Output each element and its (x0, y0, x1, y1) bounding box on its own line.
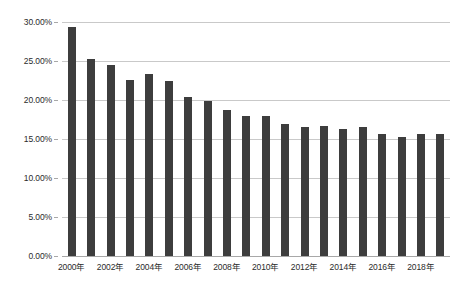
x-tick-label: 2004年 (136, 260, 163, 272)
y-tick-mark (54, 61, 58, 62)
y-tick-mark (54, 178, 58, 179)
bar (223, 110, 231, 256)
y-tick-label: 20.00% (24, 95, 52, 105)
y-tick-label: 10.00% (24, 173, 52, 183)
bar (436, 134, 444, 256)
bar (398, 137, 406, 256)
bar-series (62, 22, 450, 256)
y-tick-mark (54, 139, 58, 140)
bar (301, 127, 309, 256)
bar (145, 74, 153, 256)
x-tick-label: 2002年 (97, 260, 124, 272)
bar (242, 116, 250, 256)
y-tick-mark (54, 217, 58, 218)
bar (184, 97, 192, 256)
y-tick-mark (54, 22, 58, 23)
bar (204, 101, 212, 256)
y-tick-mark (54, 256, 58, 257)
x-tick-label: 2000年 (58, 260, 85, 272)
bar (87, 59, 95, 256)
x-tick-label: 2012年 (291, 260, 318, 272)
bar (359, 127, 367, 256)
bar (339, 129, 347, 256)
bar (378, 134, 386, 256)
gridline (62, 256, 450, 257)
bar (281, 124, 289, 256)
x-tick-label: 2018年 (407, 260, 434, 272)
bar (262, 116, 270, 256)
plot-area (62, 22, 450, 256)
y-tick-label: 30.00% (24, 17, 52, 27)
x-tick-label: 2008年 (213, 260, 240, 272)
x-tick-label: 2016年 (368, 260, 395, 272)
y-tick-label: 0.00% (28, 251, 52, 261)
bar-chart: 0.00%5.00%10.00%15.00%20.00%25.00%30.00%… (0, 0, 460, 290)
y-tick-mark (54, 100, 58, 101)
bar (417, 134, 425, 256)
x-axis: 2000年2002年2004年2006年2008年2010年2012年2014年… (62, 260, 450, 284)
bar (68, 27, 76, 256)
y-tick-label: 15.00% (24, 134, 52, 144)
x-tick-label: 2010年 (252, 260, 279, 272)
bar (126, 80, 134, 256)
y-axis: 0.00%5.00%10.00%15.00%20.00%25.00%30.00% (0, 0, 58, 290)
bar (107, 65, 115, 256)
y-tick-label: 5.00% (28, 212, 52, 222)
y-tick-label: 25.00% (24, 56, 52, 66)
x-tick-label: 2006年 (174, 260, 201, 272)
bar (165, 81, 173, 257)
bar (320, 126, 328, 256)
x-tick-label: 2014年 (330, 260, 357, 272)
